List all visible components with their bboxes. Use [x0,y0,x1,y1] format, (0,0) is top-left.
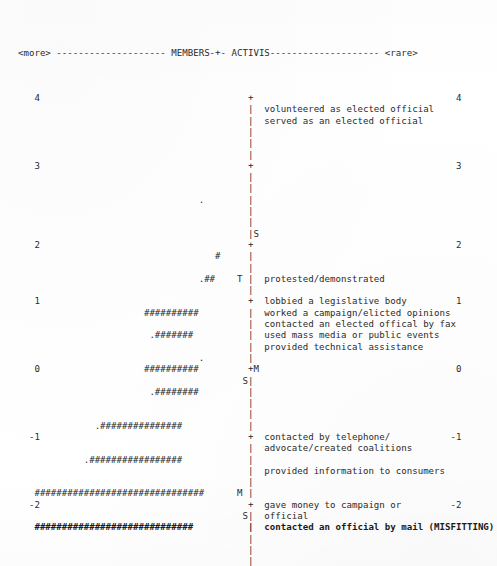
map-row: .################# | [18,455,494,466]
map-row: | [18,183,494,194]
map-row: | [18,150,494,161]
map-row: | [18,534,494,545]
map-row: | served as an elected official [18,116,494,127]
character-grid: <more> -------------------- MEMBERS-+- A… [18,14,494,566]
map-row: 1 + lobbied a legislative body 1 [18,296,494,307]
map-row: .############### | [18,421,494,432]
map-row: | [18,206,494,217]
map-row: | provided technical assistance [18,342,494,353]
map-row: | [18,556,494,566]
map-row: | [18,217,494,228]
map-row: | provided information to consumers [18,466,494,477]
map-row: # | [18,251,494,262]
map-row: | volunteered as elected official [18,104,494,115]
map-row: | [18,477,494,488]
map-row: 3 + 3 [18,161,494,172]
map-row: | [18,138,494,149]
map-row: .######## | [18,387,494,398]
map-row: ############################# | contacte… [18,522,494,533]
map-row: . | [18,195,494,206]
map-row: | [18,545,494,556]
map-row: |S [18,229,494,240]
map-row: 2 + 2 [18,240,494,251]
map-row: | [18,127,494,138]
map-row: S| official [18,511,494,522]
map-body: 4 + 4 | volunteered as elected official … [18,93,494,566]
map-row: | advocate/created coalitions [18,443,494,454]
map-row: | [18,263,494,274]
map-row: | [18,409,494,420]
map-row: | [18,172,494,183]
wright-map: <more> -------------------- MEMBERS-+- A… [0,0,497,566]
map-row: | [18,285,494,296]
map-row: .## T | protested/demonstrated [18,274,494,285]
map-row: 0 ########## +M 0 [18,364,494,375]
map-row: ############################### M | [18,488,494,499]
map-row: S| [18,376,494,387]
map-row: -1 + contacted by telephone/ -1 [18,432,494,443]
map-header-row: <more> -------------------- MEMBERS-+- A… [18,48,494,59]
map-row: | [18,398,494,409]
map-row: 4 + 4 [18,93,494,104]
map-row: . | [18,353,494,364]
map-row: .####### | used mass media or public eve… [18,330,494,341]
map-row: -2 + gave money to campaign or -2 [18,500,494,511]
map-row: ########## | worked a campaign/elicted o… [18,308,494,319]
map-row: | contacted an elected offical by fax [18,319,494,330]
